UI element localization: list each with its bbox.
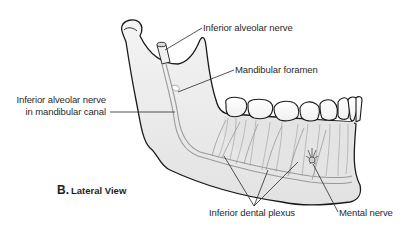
label-inferior-dental-plexus: Inferior dental plexus <box>209 207 295 218</box>
nerve-cut-end <box>157 42 166 46</box>
caption-letter: B. <box>57 183 69 197</box>
label-mental-nerve: Mental nerve <box>339 207 393 218</box>
label-nerve-in-canal-line1: Inferior alveolar nerve <box>12 94 106 105</box>
figure-caption: B.Lateral View <box>57 180 126 198</box>
label-nerve-in-canal-line2: in mandibular canal <box>12 106 106 117</box>
label-inferior-alveolar-nerve: Inferior alveolar nerve <box>203 22 293 33</box>
mandible-diagram: Inferior alveolar nerve Mandibular foram… <box>0 0 415 232</box>
label-mandibular-foramen: Mandibular foramen <box>235 64 318 75</box>
mandibular-foramen <box>172 85 179 91</box>
caption-view-name: Lateral View <box>71 185 126 196</box>
